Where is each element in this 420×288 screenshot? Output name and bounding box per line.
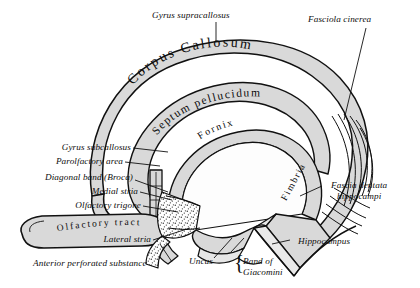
label-band-of-giacomini-line1: Band of	[243, 256, 273, 267]
label-gyrus-subcallosus: Gyrus subcallosus	[0, 142, 131, 153]
label-hippocampus: Hippocampus	[298, 236, 350, 247]
label-anterior-perforated-substance: Anterior perforated substance	[33, 258, 147, 269]
label-gyrus-supracallosus: Gyrus supracallosus	[152, 10, 230, 21]
label-fascia-dentata-line1: Fascia dentata	[331, 180, 387, 191]
label-medial-stria: Medial stria	[0, 186, 138, 197]
label-lateral-stria: Lateral stria	[0, 234, 151, 245]
label-parolfactory-area: Parolfactory area	[0, 156, 123, 167]
label-fasciola-cinerea: Fasciola cinerea	[308, 14, 371, 25]
label-band-of-giacomini-line2: Giacomini	[243, 267, 283, 278]
label-uncus: Uncus	[189, 256, 213, 267]
label-fascia-dentata-line2: hippocampi	[337, 191, 381, 202]
label-olfactory-trigone: Olfactory trigone	[0, 200, 141, 211]
label-diagonal-band-broca: Diagonal band (Broca)	[0, 172, 133, 183]
anatomical-figure: Corpus Callosum Septum pellucidum Fornix…	[0, 0, 420, 288]
